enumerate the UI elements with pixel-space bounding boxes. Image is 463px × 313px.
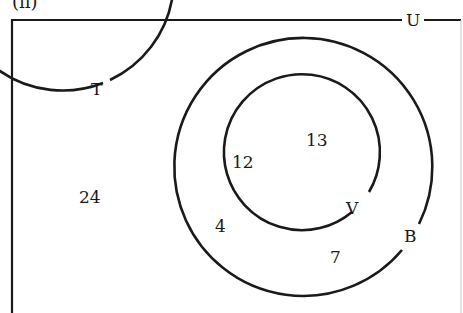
set-v-label: V [345,198,359,218]
region-v-only: 13 [306,130,328,150]
part-label: (ii) [12,0,38,12]
set-b-label: B [404,226,417,246]
region-t-and-v: 12 [232,152,254,172]
universal-set-label: U [406,10,420,30]
region-t-only: 24 [79,187,101,207]
venn-diagram: (ii) U T B V 24 12 13 4 7 [0,0,463,313]
region-t-and-b-not-v: 4 [215,216,226,236]
set-t-label: T [91,79,103,99]
region-b-only: 7 [330,247,341,267]
set-b-circle [174,38,432,296]
set-t-circle [0,0,174,91]
